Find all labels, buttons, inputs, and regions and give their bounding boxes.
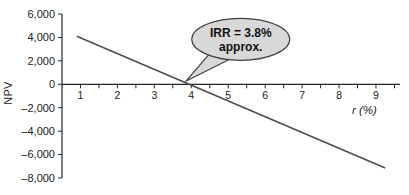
y-tick-label: –2,000	[21, 102, 55, 114]
npv-irr-chart: 6,0004,0002,0000–2,000–4,000–6,000–8,000…	[0, 0, 409, 195]
x-tick-label: 8	[336, 89, 342, 101]
y-tick-label: 2,000	[27, 55, 55, 67]
x-axis-title: r (%)	[352, 104, 377, 116]
x-tick-label: 6	[262, 89, 268, 101]
y-tick-label: –8,000	[21, 172, 55, 184]
callout-text-line2: approx.	[219, 40, 262, 54]
y-tick-label: –4,000	[21, 125, 55, 137]
chart-canvas: 6,0004,0002,0000–2,000–4,000–6,000–8,000…	[0, 0, 409, 195]
y-tick-label: 6,000	[27, 8, 55, 20]
y-tick-label: 4,000	[27, 31, 55, 43]
y-tick-label: 0	[49, 78, 55, 90]
y-tick-label: –6,000	[21, 148, 55, 160]
x-tick-label: 9	[373, 89, 379, 101]
x-tick-label: 4	[188, 89, 194, 101]
x-tick-label: 3	[151, 89, 157, 101]
x-tick-label: 7	[299, 89, 305, 101]
x-tick-label: 2	[114, 89, 120, 101]
x-tick-label: 1	[78, 89, 84, 101]
y-axis-title: NPV	[2, 73, 16, 113]
callout-text-line1: IRR = 3.8%	[210, 26, 272, 40]
